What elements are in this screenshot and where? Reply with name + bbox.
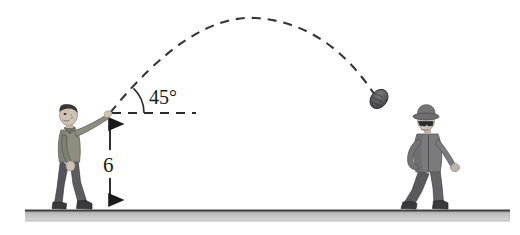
- height-dimension: 6: [99, 124, 121, 200]
- thrower-raised-arm: [74, 115, 110, 137]
- height-label: 6: [103, 153, 114, 177]
- catcher-figure: [401, 105, 460, 209]
- ground-line: [25, 210, 510, 221]
- catcher-front-shoe: [433, 201, 449, 210]
- catcher-sunglasses: [419, 122, 434, 127]
- catcher-hand: [451, 164, 460, 172]
- angle-arc: [134, 88, 145, 113]
- catcher-back-shoe: [401, 202, 417, 210]
- thrower-back-shoe: [52, 202, 67, 209]
- figure-canvas: 45° 6: [0, 0, 520, 235]
- thrower-eye: [64, 113, 67, 115]
- catcher-front-leg: [430, 170, 444, 202]
- projectile-motion-figure: 45° 6: [0, 0, 520, 235]
- thrower-throwing-hand: [104, 111, 112, 118]
- catcher-hat-brim: [413, 113, 439, 120]
- ground-surface: [25, 210, 510, 221]
- thrower-hand: [66, 161, 75, 171]
- thrower-front-shoe: [77, 201, 93, 210]
- angle-label: 45°: [149, 86, 177, 108]
